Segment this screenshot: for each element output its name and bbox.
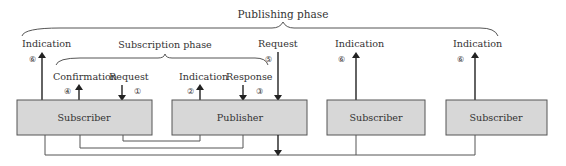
publishing-phase-brace	[22, 22, 498, 36]
indication-label-2: Indication	[179, 71, 228, 82]
node-subscriber-2: Subscriber	[327, 100, 425, 135]
step-6b: ⑥	[338, 55, 345, 64]
node-subscriber-1: Subscriber	[17, 100, 152, 135]
response-label-3: Response	[226, 71, 273, 82]
indication-label-6c: Indication	[453, 38, 502, 49]
subscriber-3-label: Subscriber	[469, 112, 523, 123]
indication-label-6b: Indication	[335, 38, 384, 49]
node-publisher: Publisher	[172, 100, 307, 135]
indication-label-6a: Indication	[22, 38, 71, 49]
network-bus	[45, 135, 475, 155]
step-3: ③	[256, 87, 263, 96]
step-1: ①	[134, 87, 141, 96]
subscription-phase-label: Subscription phase	[118, 39, 212, 50]
step-2: ②	[187, 87, 194, 96]
confirmation-label: Confirmation	[53, 71, 117, 82]
step-6c: ⑥	[457, 55, 464, 64]
request-label-5: Request	[258, 38, 298, 49]
request-label-1: Request	[109, 71, 149, 82]
node-subscriber-3: Subscriber	[446, 100, 547, 135]
subscription-phase-brace	[56, 54, 268, 65]
step-6a: ⑥	[29, 55, 36, 64]
step-4: ④	[64, 87, 71, 96]
subscriber-1-label: Subscriber	[57, 112, 111, 123]
step-5: ⑤	[265, 55, 272, 64]
publisher-label: Publisher	[217, 112, 264, 123]
subscriber-2-label: Subscriber	[349, 112, 403, 123]
publishing-phase-label: Publishing phase	[238, 8, 329, 20]
publish-subscribe-diagram: Publishing phase Subscription phase Indi…	[0, 0, 566, 166]
